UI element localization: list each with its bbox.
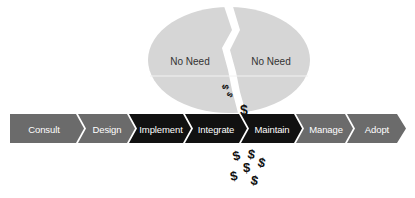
step-manage: Manage bbox=[309, 124, 343, 135]
svg-text:$: $ bbox=[256, 154, 268, 171]
dollar-icon-group-falling: $ $ $ $ $ $ bbox=[229, 146, 268, 188]
bubble-left-label: No Need bbox=[170, 56, 209, 67]
step-consult: Consult bbox=[28, 124, 60, 135]
svg-text:$: $ bbox=[249, 172, 260, 188]
diagram: $ $ $ $ $ $ $ $ $ No Need No Need Consul… bbox=[0, 0, 415, 198]
svg-text:$: $ bbox=[243, 160, 251, 175]
step-design: Design bbox=[93, 124, 122, 135]
step-implement: Implement bbox=[139, 124, 182, 135]
step-adopt: Adopt bbox=[365, 124, 389, 135]
bubble-right-label: No Need bbox=[251, 56, 290, 67]
svg-text:$: $ bbox=[231, 147, 243, 164]
svg-text:$: $ bbox=[229, 168, 239, 184]
step-integrate: Integrate bbox=[198, 124, 235, 135]
step-maintain: Maintain bbox=[254, 124, 289, 135]
